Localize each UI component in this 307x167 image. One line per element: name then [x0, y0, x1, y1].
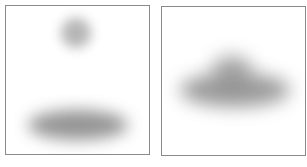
left-panel — [5, 5, 150, 155]
small-round-blob — [61, 18, 91, 48]
wide-elongated-blob — [28, 110, 128, 140]
cloud-blob-top — [212, 55, 252, 85]
right-panel — [161, 6, 306, 156]
